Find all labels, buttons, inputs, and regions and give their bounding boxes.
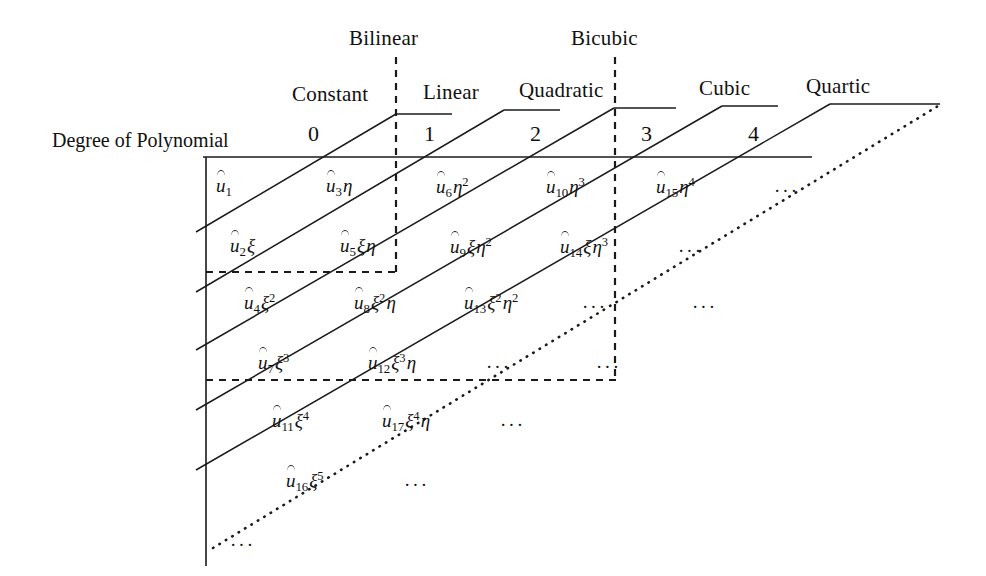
diagonal-constant [196, 114, 452, 232]
term-u14: u14ξη3 [560, 236, 608, 259]
term-u15: u15η4 [656, 176, 695, 199]
degree-tick-0: 0 [308, 123, 319, 145]
label-linear: Linear [423, 82, 479, 103]
ellipsis-cell: ··· [596, 356, 621, 378]
term-u6: u6η2 [436, 176, 469, 199]
term-u10: u10η3 [546, 176, 585, 199]
term-u13: u13ξ2η2 [464, 292, 518, 315]
polynomial-degree-diagram: Bilinear Bicubic Constant Linear Quadrat… [0, 0, 986, 576]
label-bilinear: Bilinear [349, 28, 418, 49]
term-u12: u12ξ3η [368, 352, 416, 375]
term-u7: u7ξ3 [258, 352, 289, 375]
label-quadratic: Quadratic [519, 80, 604, 101]
degree-tick-4: 4 [748, 123, 759, 145]
label-constant: Constant [292, 84, 368, 105]
label-quartic: Quartic [806, 76, 870, 97]
ellipsis-cell: ··· [774, 180, 799, 202]
degree-tick-3: 3 [641, 123, 652, 145]
ellipsis-cell: ··· [230, 534, 255, 556]
term-u3: u3η [326, 176, 352, 199]
term-u11: u11ξ4 [272, 410, 309, 433]
ellipsis-cell: ··· [404, 474, 429, 496]
term-u2: u2ξ [230, 236, 255, 259]
label-cubic: Cubic [699, 78, 750, 99]
term-u9: u9ξη2 [450, 236, 492, 259]
axis-title-degree-of-polynomial: Degree of Polynomial [52, 130, 229, 150]
diagonal-linear [196, 110, 560, 292]
label-bicubic: Bicubic [571, 28, 638, 49]
term-u4: u4ξ2 [244, 292, 275, 315]
ellipsis-cell: ··· [500, 414, 525, 436]
ellipsis-cell: ··· [486, 356, 511, 378]
term-u17: u17ξ4η [382, 410, 430, 433]
term-u16: u16ξ5 [286, 470, 324, 493]
bicubic-dashed-box [206, 57, 616, 380]
ellipsis-cell: ··· [692, 296, 717, 318]
degree-tick-2: 2 [530, 123, 541, 145]
term-u5: u5ξη [340, 236, 376, 259]
ellipsis-cell: ··· [582, 296, 607, 318]
term-u8: u8ξ2η [354, 292, 396, 315]
term-u1: u1 [216, 176, 232, 199]
ellipsis-cell: ··· [678, 240, 703, 262]
degree-tick-1: 1 [424, 123, 435, 145]
